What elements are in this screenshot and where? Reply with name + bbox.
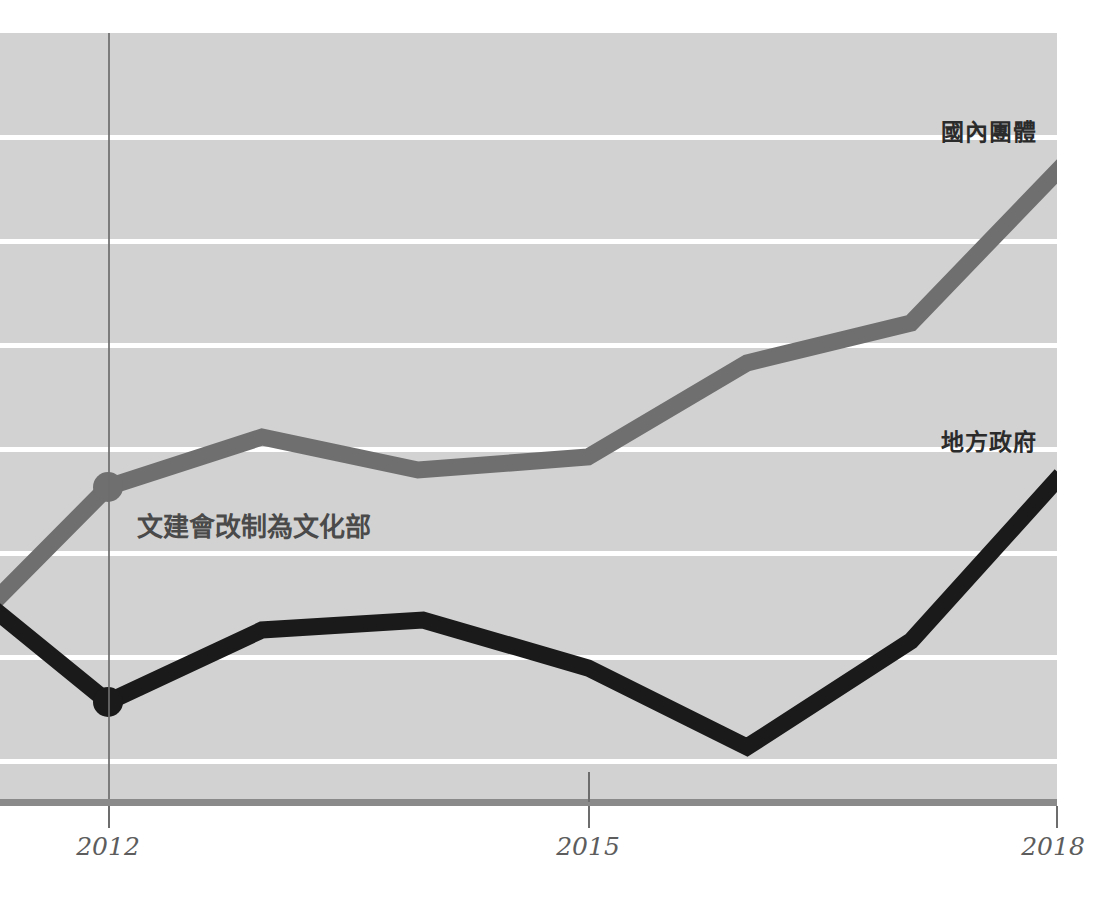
x-axis-tick-2015 <box>588 806 590 828</box>
x-axis-label-2015: 2015 <box>556 832 620 861</box>
x-axis-tick-2015-upper <box>588 772 590 802</box>
series-label-local: 地方政府 <box>941 423 1037 457</box>
x-axis-label-2012: 2012 <box>76 832 140 861</box>
line-chart: 國內團體 地方政府 文建會改制為文化部 2012 2015 2018 <box>0 0 1110 912</box>
plot-area <box>0 33 1057 802</box>
series-lines <box>0 33 1057 802</box>
series-label-domestic: 國內團體 <box>941 113 1037 147</box>
x-axis-tick-2018 <box>1056 806 1058 828</box>
annotation-reform: 文建會改制為文化部 <box>137 506 371 543</box>
reference-line-2012 <box>108 33 110 805</box>
x-axis-tick-2012 <box>108 806 110 828</box>
x-axis <box>0 799 1057 806</box>
x-axis-label-2018: 2018 <box>1021 832 1085 861</box>
